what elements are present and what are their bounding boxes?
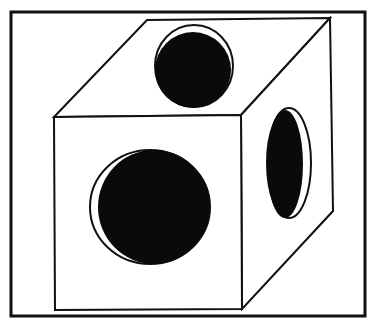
right-hole-fill xyxy=(267,110,303,218)
top-hole-fill xyxy=(155,32,231,108)
cube-diagram xyxy=(0,0,371,324)
front-hole-fill xyxy=(98,150,210,264)
